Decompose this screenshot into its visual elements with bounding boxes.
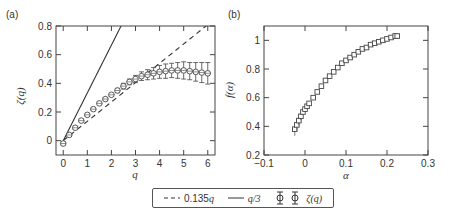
svg-text:0.1: 0.1	[339, 158, 353, 169]
svg-text:0: 0	[60, 158, 66, 169]
legend-label-markers: ζ(q)	[306, 193, 322, 204]
plot-b: −0.100.10.20.30.20.40.60.81	[246, 26, 435, 169]
svg-text:4: 4	[157, 158, 163, 169]
b-xlabel: α	[343, 169, 349, 181]
svg-text:0.3: 0.3	[421, 158, 435, 169]
svg-text:0.8: 0.8	[246, 64, 260, 75]
svg-text:5: 5	[181, 158, 187, 169]
svg-text:2: 2	[109, 158, 115, 169]
svg-text:0: 0	[302, 158, 308, 169]
svg-text:1: 1	[85, 158, 91, 169]
svg-text:0.2: 0.2	[246, 150, 260, 161]
legend-item-solid: q/3	[228, 193, 261, 204]
svg-text:6: 6	[205, 158, 211, 169]
plot-a: 012345600.20.40.60.8	[38, 21, 215, 170]
legend: 0.135q q/3 ζ(q)	[152, 188, 334, 208]
svg-text:1: 1	[254, 35, 260, 46]
svg-text:0.6: 0.6	[38, 49, 52, 60]
legend-item-markers: ζ(q)	[274, 191, 322, 205]
panel-b-label: (b)	[228, 9, 240, 20]
panel-a-label: (a)	[6, 9, 18, 20]
svg-text:0.2: 0.2	[380, 158, 394, 169]
svg-text:0.4: 0.4	[38, 78, 52, 89]
legend-label-solid: q/3	[248, 193, 261, 204]
svg-text:0.4: 0.4	[246, 121, 260, 132]
b-ylabel: f(α)	[223, 82, 236, 98]
errorbar-marker-icon	[274, 191, 302, 205]
a-ylabel: ζ(q)	[14, 87, 27, 105]
svg-text:0.2: 0.2	[38, 107, 52, 118]
legend-item-dashed: 0.135q	[164, 193, 214, 204]
a-xlabel: q	[132, 168, 138, 180]
legend-label-dashed: 0.135q	[184, 193, 214, 204]
svg-text:0.8: 0.8	[38, 21, 52, 32]
svg-text:0.6: 0.6	[246, 92, 260, 103]
svg-text:0: 0	[46, 135, 52, 146]
